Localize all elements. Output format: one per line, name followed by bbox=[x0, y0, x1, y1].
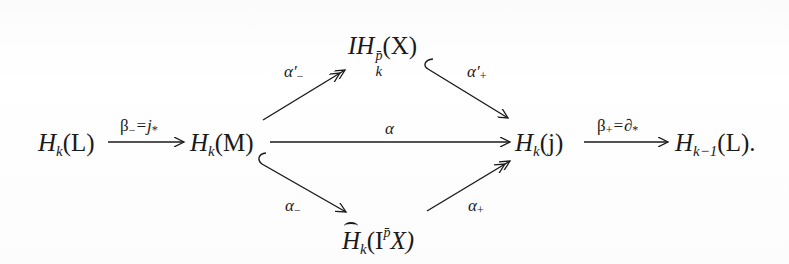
arrow-alpha-prime-minus bbox=[263, 70, 345, 120]
label-alpha-prime-plus-sym: α′ bbox=[467, 62, 480, 81]
node-hk-m-sub: k bbox=[208, 143, 215, 159]
label-beta-minus-rest-sub: * bbox=[152, 123, 158, 137]
node-hk1-l: Hk−1(L). bbox=[675, 130, 756, 159]
node-ih-base: H bbox=[356, 32, 374, 59]
node-hk-m-base: H bbox=[190, 129, 208, 156]
label-beta-minus-sym: β bbox=[120, 116, 129, 135]
label-alpha-prime-plus: α′+ bbox=[467, 63, 486, 82]
node-h-tilde-arg-open: (I bbox=[367, 227, 384, 254]
node-hk-m-arg: (M) bbox=[215, 129, 254, 156]
label-alpha-plus: α+ bbox=[468, 197, 484, 216]
label-alpha: α bbox=[385, 120, 394, 137]
node-hk-j-sub: k bbox=[533, 143, 540, 159]
arrow-alpha-minus bbox=[259, 153, 346, 212]
node-hk-l-base: H bbox=[38, 129, 56, 156]
label-alpha-prime-minus-sub: − bbox=[297, 69, 304, 83]
node-hk-j: Hk(j) bbox=[515, 130, 563, 159]
node-hk-l-sub: k bbox=[56, 143, 63, 159]
label-alpha-prime-minus: α′− bbox=[284, 63, 303, 82]
node-h-tilde-arg-close: X) bbox=[390, 227, 414, 254]
node-hk-j-base: H bbox=[515, 129, 533, 156]
label-alpha-sym: α bbox=[385, 119, 394, 138]
node-h-tilde-sub: k bbox=[360, 241, 367, 257]
label-alpha-plus-sym: α bbox=[468, 196, 477, 215]
node-hk-l-arg: (L) bbox=[63, 129, 95, 156]
node-hk1-l-sub: k−1 bbox=[693, 143, 717, 159]
node-hk1-l-base: H bbox=[675, 129, 693, 156]
node-hk-l: Hk(L) bbox=[38, 130, 95, 159]
label-alpha-prime-plus-sub: + bbox=[480, 69, 487, 83]
node-hk-m: Hk(M) bbox=[190, 130, 254, 159]
label-alpha-minus-sym: α bbox=[285, 196, 294, 215]
label-alpha-prime-minus-sym: α′ bbox=[284, 62, 297, 81]
label-beta-minus-rest: =j bbox=[135, 116, 151, 135]
label-beta-plus-rest: =∂ bbox=[612, 116, 632, 135]
node-ih-arg: (X) bbox=[382, 32, 417, 59]
label-alpha-minus-sub: − bbox=[294, 203, 301, 217]
node-ih: IHp̄k(X) bbox=[348, 33, 417, 79]
label-beta-plus: β+=∂* bbox=[597, 117, 638, 136]
label-beta-minus: β−=j* bbox=[120, 117, 158, 136]
label-beta-plus-sym: β bbox=[597, 116, 606, 135]
label-alpha-minus: α− bbox=[285, 197, 301, 216]
node-h-tilde-base: H bbox=[342, 228, 360, 253]
node-hk-j-arg: (j) bbox=[540, 129, 564, 156]
node-ih-sub: k bbox=[375, 64, 382, 79]
label-alpha-plus-sub: + bbox=[477, 203, 484, 217]
node-h-tilde: Hk(Ip̄X) bbox=[342, 226, 414, 257]
node-hk1-l-arg: (L). bbox=[717, 129, 755, 156]
label-beta-plus-rest-sub: * bbox=[632, 123, 638, 137]
